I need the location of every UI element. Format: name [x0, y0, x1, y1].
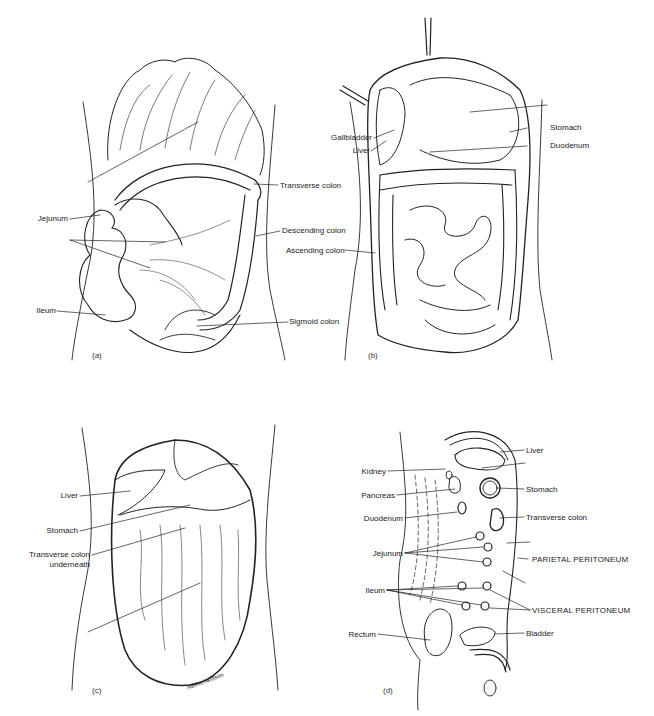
panel-b-drawing	[340, 18, 552, 360]
label-d-stomach: Stomach	[526, 485, 558, 494]
label-c-underneath: underneath	[10, 560, 90, 569]
panel-tag-a: (a)	[92, 351, 102, 360]
label-a-descending-colon: Descending colon	[282, 226, 346, 235]
panel-d-drawing	[398, 432, 517, 710]
panel-tag-c: (c)	[92, 686, 101, 695]
panel-tag-d: (d)	[383, 686, 393, 695]
label-b-duodenum: Duodenum	[550, 141, 589, 150]
panel-tag-b: (b)	[368, 351, 378, 360]
panel-c-drawing	[72, 425, 278, 690]
label-d-rectum: Rectum	[330, 630, 376, 639]
label-d-duodenum: Duodenum	[340, 514, 403, 523]
label-d-kidney: Kidney	[340, 467, 386, 476]
label-b-liver: Liver	[290, 146, 370, 155]
panel-d-leaders	[378, 450, 530, 640]
label-a-ileum: Ileum	[20, 306, 56, 315]
label-d-liver: Liver	[526, 446, 543, 455]
panel-a-leaders	[57, 122, 288, 326]
label-b-stomach: Stomach	[550, 123, 582, 132]
label-c-liver: Liver	[20, 491, 78, 500]
label-d-visceral-peritoneum: VISCERAL PERITONEUM	[532, 606, 631, 615]
label-d-pancreas: Pancreas	[340, 491, 395, 500]
label-b-ascending-colon: Ascending colon	[286, 246, 345, 255]
label-d-jejunum: Jejunum	[340, 549, 403, 558]
label-d-ileum: Ileum	[340, 586, 385, 595]
label-d-transverse-colon: Transverse colon	[526, 513, 587, 522]
label-a-sigmoid-colon: Sigmoid colon	[289, 317, 339, 326]
label-a-jejunum: Jejunum	[20, 214, 68, 223]
label-d-bladder: Bladder	[526, 629, 554, 638]
label-c-transverse-colon: Transverse colon	[10, 550, 90, 559]
label-d-parietal-peritoneum: PARIETAL PERITONEUM	[532, 555, 628, 564]
label-a-transverse-colon: Transverse colon	[280, 181, 341, 190]
label-c-stomach: Stomach	[20, 526, 78, 535]
label-b-gallbladder: Gallbladder	[290, 133, 372, 142]
